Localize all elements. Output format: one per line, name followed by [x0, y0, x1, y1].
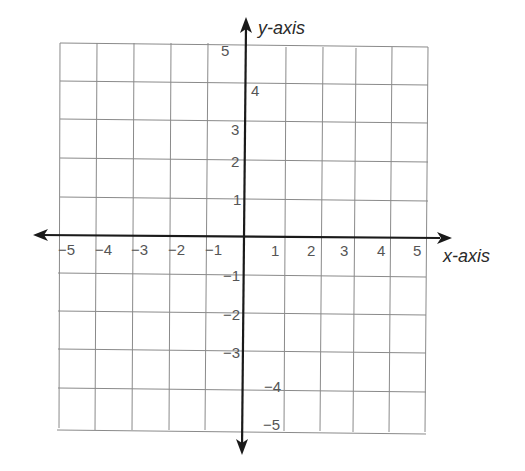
x-tick-label: −2	[168, 241, 185, 258]
x-tick-label: −1	[205, 241, 222, 258]
x-tick-label: 4	[377, 242, 385, 259]
y-tick-label: −4	[264, 378, 281, 395]
y-tick-label: 4	[251, 82, 259, 99]
y-tick-label: 1	[233, 191, 241, 208]
x-tick-label: −3	[131, 241, 148, 258]
coordinate-plane: y-axis x-axis −5 −4 −3 −2 −1 1 2 3 4 5 5…	[0, 0, 525, 471]
y-tick-label: 2	[231, 153, 239, 170]
grid-line-y-5	[60, 43, 428, 47]
x-tick-label: 5	[413, 242, 421, 259]
x-axis-line	[40, 235, 440, 238]
y-tick-label: 5	[221, 42, 229, 59]
x-tick-label: 3	[340, 242, 348, 259]
grid-line-y-neg2	[58, 311, 426, 315]
y-tick-label: −1	[223, 267, 240, 284]
grid-line-y-neg1	[58, 273, 426, 277]
grid-line-y-4	[60, 81, 428, 85]
grid-line-x-1	[284, 47, 286, 431]
grid-line-x-2	[320, 47, 323, 431]
grid-line-x-3	[353, 48, 356, 432]
x-tick-labels: −5 −4 −3 −2 −1 1 2 3 4 5	[58, 241, 421, 259]
y-axis-line	[242, 26, 246, 450]
x-tick-label: −5	[58, 241, 75, 258]
y-axis-title: y-axis	[256, 18, 305, 38]
y-tick-label: −3	[223, 344, 240, 361]
grid-line-x-5	[425, 47, 428, 432]
x-tick-label: −4	[95, 241, 112, 258]
x-axis-title: x-axis	[442, 246, 490, 266]
y-tick-label: −5	[263, 416, 280, 433]
y-tick-label: −2	[223, 306, 240, 323]
x-tick-label: 2	[307, 242, 315, 259]
y-tick-label: 3	[231, 121, 239, 138]
grid-line-x-4	[389, 47, 392, 432]
x-tick-label: 1	[271, 242, 279, 259]
